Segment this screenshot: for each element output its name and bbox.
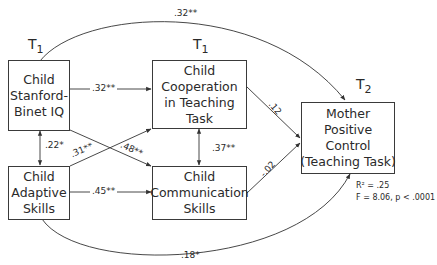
time-label-t2: T2: [356, 76, 372, 96]
r-squared: R² = .25: [356, 180, 435, 192]
node-text: Adaptive: [11, 185, 66, 201]
node-text: Child: [23, 72, 55, 88]
coef-iq-adaptive: .22*: [45, 140, 64, 150]
node-text: Child: [23, 169, 55, 185]
node-text: Control: [325, 138, 370, 154]
node-text: Child: [184, 169, 216, 185]
time-label-t1-left: T1: [28, 36, 44, 56]
node-text: Child: [184, 63, 216, 79]
node-mother-positive-control: Mother Positive Control (Teaching Task): [301, 102, 395, 174]
node-text: Positive: [324, 122, 372, 138]
node-text: Mother: [326, 106, 370, 122]
node-text: Skills: [183, 201, 215, 217]
f-statistic: F = 8.06, p < .0001: [356, 192, 435, 204]
node-text: Communication: [150, 185, 249, 201]
node-text: Stanford-: [10, 88, 68, 104]
node-text: (Teaching Task): [300, 154, 396, 170]
coef-cooperation-communication: .37**: [212, 143, 235, 153]
coef-adaptive-mother: .18*: [181, 250, 200, 260]
time-label-t1-middle: T1: [193, 36, 209, 56]
node-child-adaptive-skills: Child Adaptive Skills: [8, 166, 70, 220]
coef-adaptive-communication: .45**: [90, 186, 117, 196]
node-text: Task: [186, 111, 213, 127]
node-child-cooperation: Child Cooperation in Teaching Task: [152, 60, 247, 129]
node-child-communication-skills: Child Communication Skills: [152, 166, 247, 220]
node-text: in Teaching: [164, 95, 234, 111]
model-stats: R² = .25 F = 8.06, p < .0001: [356, 180, 435, 204]
node-text: Binet IQ: [14, 104, 64, 120]
coef-iq-mother: .32**: [174, 8, 197, 18]
node-child-stanford-binet-iq: Child Stanford- Binet IQ: [8, 60, 70, 131]
node-text: Cooperation: [161, 79, 237, 95]
coef-iq-cooperation: .32**: [90, 83, 117, 93]
node-text: Skills: [23, 201, 55, 217]
